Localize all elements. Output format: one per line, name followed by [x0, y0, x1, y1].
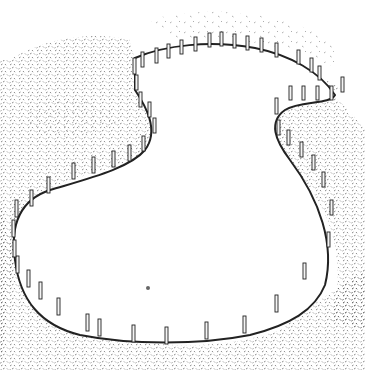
garden-bed-illustration — [0, 0, 365, 370]
dot-mark — [146, 286, 150, 290]
